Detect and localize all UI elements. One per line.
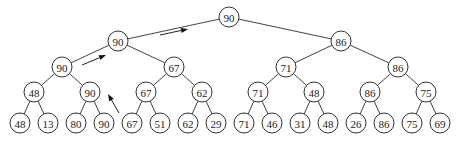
tree-edge	[248, 101, 254, 114]
tree-node-level4: 46	[262, 113, 282, 133]
node-value: 62	[197, 87, 208, 99]
node-value: 86	[393, 62, 405, 74]
tree-node-level2: 86	[388, 57, 408, 77]
node-value: 71	[281, 62, 292, 74]
tree-edge	[239, 19, 331, 39]
node-value: 90	[85, 87, 97, 99]
node-value: 48	[323, 118, 335, 130]
tree-edge	[150, 101, 156, 114]
tree-edge	[136, 101, 142, 114]
tree-edge	[69, 74, 82, 86]
tree-node-level4: 62	[178, 113, 198, 133]
tree-edge	[293, 74, 306, 86]
tree-edge	[206, 101, 212, 114]
node-value: 67	[169, 62, 181, 74]
tree-node-level2: 71	[276, 57, 296, 77]
tree-node-level3: 62	[192, 82, 212, 102]
node-value: 48	[309, 87, 321, 99]
tree-node-level4: 75	[402, 113, 422, 133]
tree-node-level4: 51	[150, 113, 170, 133]
tree-edge	[153, 74, 166, 86]
tree-node-level3: 48	[24, 82, 44, 102]
tree-node-level4: 90	[94, 113, 114, 133]
tree-edge	[318, 101, 324, 114]
tree-edge	[374, 101, 380, 114]
tree-node-level4: 86	[374, 113, 394, 133]
node-value: 48	[15, 118, 27, 130]
tree-node-level0: 90	[219, 7, 239, 27]
tree-node-level4: 26	[346, 113, 366, 133]
tree-edge	[38, 101, 44, 114]
node-value: 75	[421, 87, 433, 99]
tree-edge	[416, 101, 422, 114]
node-value: 90	[57, 62, 69, 74]
tree-node-level3: 86	[360, 82, 380, 102]
node-value: 90	[99, 118, 111, 130]
tree-edge	[127, 45, 165, 63]
tree-node-level3: 90	[80, 82, 100, 102]
tree-edge	[262, 101, 268, 114]
tree-edge	[192, 101, 198, 114]
node-value: 71	[239, 118, 250, 130]
tree-edge	[128, 19, 219, 39]
tree-node-level3: 75	[416, 82, 436, 102]
node-value: 26	[351, 118, 363, 130]
tree-node-level3: 48	[304, 82, 324, 102]
node-value: 71	[253, 87, 264, 99]
tree-node-level2: 67	[164, 57, 184, 77]
node-value: 69	[435, 118, 447, 130]
tree-node-level4: 13	[38, 113, 58, 133]
node-value: 62	[183, 118, 194, 130]
tree-edge	[80, 101, 86, 114]
tree-edge	[360, 101, 366, 114]
node-value: 48	[29, 87, 41, 99]
tree-edge	[41, 74, 54, 86]
tree-node-level4: 29	[206, 113, 226, 133]
tree-node-level2: 90	[52, 57, 72, 77]
node-value: 46	[267, 118, 279, 130]
node-value: 13	[43, 118, 55, 130]
tree-edge	[405, 74, 418, 86]
node-value: 90	[113, 36, 125, 48]
tree-node-level4: 48	[318, 113, 338, 133]
node-value: 86	[336, 36, 348, 48]
node-value: 80	[71, 118, 83, 130]
tree-node-level3: 67	[136, 82, 156, 102]
node-value: 86	[379, 118, 391, 130]
tree-node-level4: 67	[122, 113, 142, 133]
node-value: 67	[141, 87, 153, 99]
node-value: 29	[211, 118, 223, 130]
tree-edge	[181, 74, 194, 86]
tree-edge	[304, 101, 310, 114]
tree-edge	[71, 45, 109, 63]
tree-edge	[94, 101, 100, 114]
node-value: 51	[155, 118, 166, 130]
tree-edge	[430, 101, 436, 114]
tree-node-level3: 71	[248, 82, 268, 102]
tree-node-level4: 69	[430, 113, 450, 133]
tree-edge	[295, 45, 332, 62]
tree-edge	[350, 45, 389, 63]
promotion-arrow-leaf-to-level3-icon	[108, 94, 119, 113]
tree-node-level4: 48	[10, 113, 30, 133]
tournament-tree-diagram: 9090869067718648906762714886754813809067…	[0, 0, 461, 142]
tree-edge	[265, 74, 278, 86]
tree-edge	[377, 74, 390, 86]
tree-nodes: 9090869067718648906762714886754813809067…	[10, 7, 450, 133]
tree-node-level4: 71	[234, 113, 254, 133]
tree-node-level4: 80	[66, 113, 86, 133]
tree-edge	[24, 101, 30, 114]
node-value: 90	[224, 12, 236, 24]
node-value: 75	[407, 118, 419, 130]
node-value: 86	[365, 87, 377, 99]
tree-node-level1: 90	[108, 31, 128, 51]
node-value: 31	[295, 118, 306, 130]
node-value: 67	[127, 118, 139, 130]
tree-node-level1: 86	[331, 31, 351, 51]
tree-node-level4: 31	[290, 113, 310, 133]
